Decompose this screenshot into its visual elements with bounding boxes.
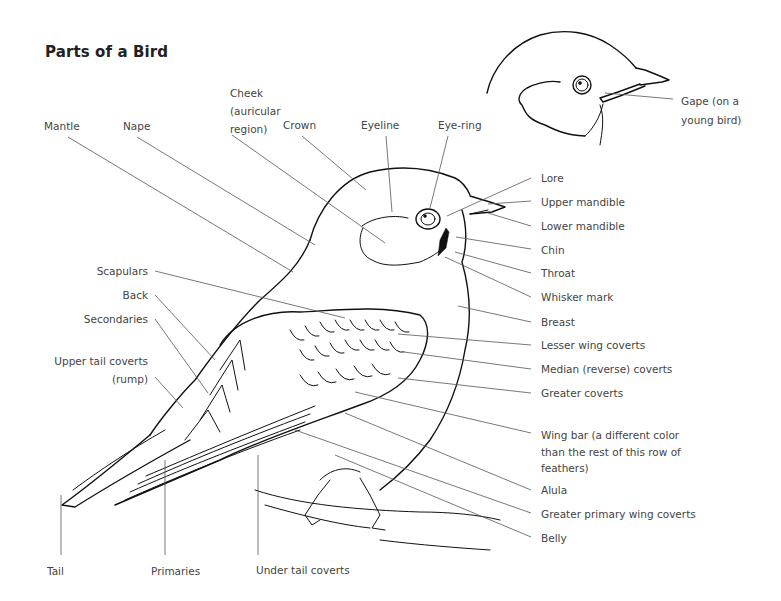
label-gape-line2: young bird) [681, 111, 741, 130]
label-under-tail-coverts: Under tail coverts [256, 564, 350, 576]
label-back: Back [123, 289, 149, 301]
label-lore: Lore [541, 172, 564, 184]
label-alula: Alula [541, 484, 567, 496]
label-secondaries: Secondaries [84, 313, 148, 325]
label-cheek-line3: region) [230, 120, 281, 138]
label-eyeline: Eyeline [361, 119, 399, 131]
label-upper-tail-coverts-line2: (rump) [54, 370, 148, 388]
label-tail: Tail [47, 565, 64, 577]
label-lesser-wing-coverts: Lesser wing coverts [541, 339, 645, 351]
label-median-coverts: Median (reverse) coverts [541, 363, 672, 375]
label-wing-bar-line3: feathers) [541, 460, 681, 477]
label-mantle: Mantle [44, 120, 80, 132]
leader-lines [61, 135, 531, 555]
label-upper-tail-coverts-line1: Upper tail coverts [54, 352, 148, 370]
label-breast: Breast [541, 316, 575, 328]
label-gape-line1: Gape (on a [681, 92, 741, 111]
label-cheek: Cheek (auricular region) [230, 84, 281, 138]
label-throat: Throat [541, 267, 575, 279]
label-upper-tail-coverts: Upper tail coverts (rump) [54, 352, 148, 388]
label-primaries: Primaries [151, 565, 200, 577]
label-wing-bar: Wing bar (a different color than the res… [541, 427, 681, 477]
label-eye-ring: Eye-ring [438, 119, 482, 131]
young-bird-head-inset [487, 32, 673, 145]
label-lower-mandible: Lower mandible [541, 220, 625, 232]
label-gape: Gape (on a young bird) [681, 92, 741, 130]
label-nape: Nape [123, 120, 150, 132]
label-upper-mandible: Upper mandible [541, 196, 625, 208]
label-belly: Belly [541, 532, 567, 544]
label-greater-primary-wing-coverts: Greater primary wing coverts [541, 508, 696, 520]
label-crown: Crown [283, 119, 316, 131]
label-cheek-line1: Cheek [230, 84, 281, 102]
label-greater-coverts: Greater coverts [541, 387, 623, 399]
label-chin: Chin [541, 244, 565, 256]
label-cheek-line2: (auricular [230, 102, 281, 120]
label-wing-bar-line2: than the rest of this row of [541, 444, 681, 461]
label-scapulars: Scapulars [97, 265, 148, 277]
label-wing-bar-line1: Wing bar (a different color [541, 427, 681, 444]
label-whisker-mark: Whisker mark [541, 291, 613, 303]
